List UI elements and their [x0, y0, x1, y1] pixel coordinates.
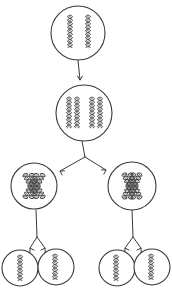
arrowhead-icon	[60, 171, 65, 175]
arrowhead-icon	[41, 248, 45, 253]
arrowhead-icon	[30, 248, 34, 253]
arrow-meiosis-i	[60, 141, 106, 175]
meiosis-diagram	[0, 0, 172, 292]
arrow-meiosis-ii-right	[125, 210, 141, 253]
meiosis-i-right	[108, 162, 156, 210]
gamete-4	[134, 249, 170, 285]
cell-membrane	[51, 6, 105, 60]
arrowhead-icon	[102, 170, 107, 174]
cell-membrane	[56, 85, 112, 141]
gamete-2	[38, 249, 74, 285]
replicated-cell	[56, 85, 112, 141]
arrow-replication	[78, 60, 83, 80]
meiosis-i-left	[11, 163, 57, 209]
arrow-meiosis-ii-left	[30, 210, 45, 253]
gamete-3	[99, 250, 135, 286]
gamete-1	[2, 250, 38, 286]
diagram-canvas	[0, 0, 172, 292]
parent-cell	[51, 6, 105, 60]
arrowhead-icon	[137, 248, 141, 253]
